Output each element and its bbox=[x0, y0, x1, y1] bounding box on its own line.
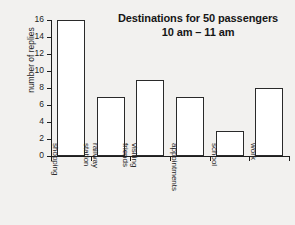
y-tick-label: 12 bbox=[35, 48, 44, 58]
x-axis-label-line: appointments bbox=[170, 143, 179, 191]
bar bbox=[255, 88, 283, 156]
x-axis-label: appointments bbox=[170, 143, 179, 191]
x-axis-label: railwaystation bbox=[82, 143, 99, 168]
y-tick: 2 bbox=[47, 139, 52, 140]
x-axis-label: shopping bbox=[51, 143, 60, 175]
x-axis-label-line: school bbox=[210, 143, 219, 166]
y-tick-label: 6 bbox=[39, 99, 44, 109]
x-axis-label-line: friends bbox=[121, 143, 130, 167]
y-tick: 8 bbox=[47, 88, 52, 89]
bar bbox=[216, 131, 244, 157]
y-tick-label: 8 bbox=[39, 82, 44, 92]
x-axis-label: visitingfriends bbox=[121, 143, 138, 167]
y-tick-label: 14 bbox=[35, 31, 44, 41]
y-tick: 10 bbox=[47, 71, 52, 72]
bar bbox=[136, 80, 164, 157]
x-axis-label-line: visiting bbox=[130, 143, 139, 167]
bar bbox=[57, 20, 85, 156]
plot-area: 0246810121416 bbox=[51, 20, 289, 156]
y-tick: 14 bbox=[47, 37, 52, 38]
y-tick: 6 bbox=[47, 105, 52, 106]
y-tick: 4 bbox=[47, 122, 52, 123]
x-axis-label-line: station bbox=[82, 143, 91, 168]
x-axis-label: work bbox=[249, 143, 258, 160]
y-tick: 16 bbox=[47, 20, 52, 21]
y-tick-label: 0 bbox=[39, 150, 44, 160]
x-tick bbox=[289, 156, 290, 161]
y-tick-label: 16 bbox=[35, 14, 44, 24]
y-tick: 12 bbox=[47, 54, 52, 55]
y-tick-label: 4 bbox=[39, 116, 44, 126]
x-axis-label: school bbox=[210, 143, 219, 166]
y-tick-label: 10 bbox=[35, 65, 44, 75]
x-axis-label-line: work bbox=[249, 143, 258, 160]
bar-chart: Destinations for 50 passengers 10 am – 1… bbox=[0, 0, 295, 225]
x-axis-label-line: shopping bbox=[51, 143, 60, 175]
bar bbox=[176, 97, 204, 157]
y-tick-label: 2 bbox=[39, 133, 44, 143]
x-axis-label-line: railway bbox=[91, 143, 100, 168]
